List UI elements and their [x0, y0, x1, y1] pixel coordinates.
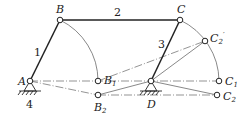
ground-supports — [18, 81, 162, 95]
label-A: A — [17, 75, 26, 88]
label-B1: B1 — [103, 74, 117, 88]
label-C1: C1 — [225, 75, 238, 89]
label-D: D — [146, 98, 156, 111]
link-label-2: 2 — [114, 6, 121, 19]
link-label-3: 3 — [158, 38, 165, 51]
label-C2: C2 — [223, 90, 236, 104]
link-label-1: 1 — [34, 46, 41, 59]
joints — [27, 17, 222, 98]
linkage-diagram: A B C D B1 B2 C1 C2 C2′ 1 2 3 4 — [0, 0, 248, 121]
construction-lines — [30, 41, 219, 95]
link-label-4: 4 — [26, 98, 33, 111]
link-3 — [151, 20, 180, 81]
arc-B — [60, 20, 98, 81]
label-C: C — [177, 3, 186, 16]
label-B2: B2 — [93, 101, 107, 115]
label-C2-prime: C2′ — [210, 31, 225, 46]
label-B: B — [55, 3, 64, 16]
arc-C — [180, 20, 219, 81]
